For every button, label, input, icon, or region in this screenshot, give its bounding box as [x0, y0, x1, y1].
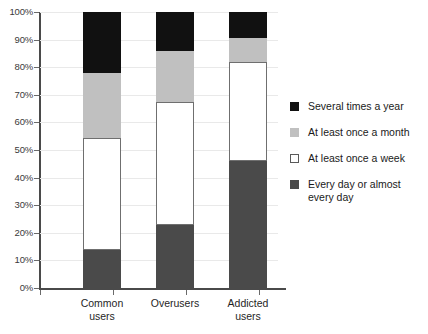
bar-segment[interactable]	[83, 12, 121, 73]
legend-swatch-icon	[290, 154, 299, 163]
y-axis-tick-label: 40%	[0, 173, 33, 183]
stacked-bar-chart: 100%90%80%70%60%50%40%30%20%10%0% Common…	[0, 0, 428, 334]
legend-label: At least once a week	[308, 152, 405, 165]
bar-segment[interactable]	[156, 12, 194, 51]
y-axis-tick-label: 20%	[0, 228, 33, 238]
y-axis-tick-label: 80%	[0, 62, 33, 72]
y-axis-tick-label: 10%	[0, 255, 33, 265]
y-axis-tick-labels: 100%90%80%70%60%50%40%30%20%10%0%	[0, 0, 33, 334]
bar-segment[interactable]	[83, 73, 121, 138]
legend-entry[interactable]: At least once a week	[290, 152, 428, 165]
bar-segment[interactable]	[229, 161, 267, 288]
y-axis-tick-label: 90%	[0, 35, 33, 45]
x-axis-tick-mark	[186, 290, 187, 295]
bar-segment[interactable]	[229, 12, 267, 38]
legend-label: At least once a month	[308, 126, 410, 139]
x-axis-tick-mark	[113, 290, 114, 295]
bar-segment[interactable]	[83, 138, 121, 250]
x-axis-label-line: users	[200, 310, 296, 323]
y-axis-tick-label: 60%	[0, 117, 33, 127]
legend-swatch-icon	[290, 180, 299, 189]
bar-segment[interactable]	[83, 250, 121, 288]
y-axis-tick-label: 30%	[0, 200, 33, 210]
plot-area	[40, 12, 278, 288]
x-axis-label-line: users	[54, 310, 150, 323]
x-axis-tick-mark	[40, 290, 41, 295]
y-axis-tick-label: 50%	[0, 145, 33, 155]
chart-legend: Several times a yearAt least once a mont…	[290, 100, 428, 217]
bar-segment[interactable]	[156, 102, 194, 225]
legend-swatch-icon	[290, 128, 299, 137]
legend-entry[interactable]: At least once a month	[290, 126, 428, 139]
x-axis-label: Addictedusers	[200, 297, 296, 323]
x-axis-tick-mark	[259, 290, 260, 295]
legend-swatch-icon	[290, 102, 299, 111]
legend-entry[interactable]: Several times a year	[290, 100, 428, 113]
legend-label: Several times a year	[308, 100, 404, 113]
legend-entry[interactable]: Every day or almost every day	[290, 178, 428, 204]
bar-column[interactable]	[229, 12, 267, 288]
y-axis-tick-label: 70%	[0, 90, 33, 100]
x-axis-label-line: Addicted	[200, 297, 296, 310]
bar-column[interactable]	[156, 12, 194, 288]
bar-segment[interactable]	[156, 225, 194, 288]
legend-label: Every day or almost every day	[308, 178, 401, 204]
bar-segment[interactable]	[229, 38, 267, 61]
bar-segment[interactable]	[156, 51, 194, 102]
y-axis-tick-label: 0%	[0, 283, 33, 293]
x-axis-line	[39, 288, 286, 290]
bar-column[interactable]	[83, 12, 121, 288]
y-axis-tick-label: 100%	[0, 7, 33, 17]
bar-segment[interactable]	[229, 62, 267, 161]
